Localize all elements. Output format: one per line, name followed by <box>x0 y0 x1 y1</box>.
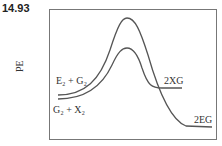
label-upper-product: 2XG <box>164 75 183 86</box>
label-lower-product: 2EG <box>194 114 212 125</box>
energy-diagram: E₂ + G₂ G₂ + X₂ 2XG 2EG <box>0 0 222 146</box>
label-upper-reactants: E₂ + G₂ <box>56 75 87 86</box>
label-lower-reactants: G₂ + X₂ <box>53 104 85 115</box>
